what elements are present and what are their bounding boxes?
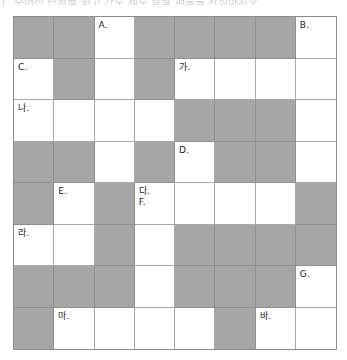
crossword-grid: A.B.C.가.나.D.E.다. F.라.G.마.바. [13,16,337,350]
blocked-cell [175,17,215,59]
answer-cell[interactable] [296,100,336,142]
blocked-cell [215,17,255,59]
blocked-cell [296,183,336,225]
blocked-cell [14,17,54,59]
blocked-cell [14,308,54,350]
blocked-cell [256,266,296,308]
clue-number-label: B. [300,20,310,31]
answer-cell[interactable] [54,225,94,267]
blocked-cell [95,225,135,267]
instruction-text: 1. 주어진 단서를 읽고 가로 세로 낱말 퍼즐을 완성하시오. [0,0,347,5]
clue-number-label: A. [99,20,108,31]
answer-cell[interactable]: 다. F. [135,183,175,225]
clue-number-label: 나. [18,103,29,114]
answer-cell[interactable] [215,183,255,225]
blocked-cell [175,225,215,267]
blocked-cell [256,100,296,142]
answer-cell[interactable]: A. [95,17,135,59]
blocked-cell [95,266,135,308]
blocked-cell [54,142,94,184]
clue-number-label: E. [58,186,67,197]
answer-cell[interactable] [95,100,135,142]
clue-number-label: 가. [179,62,190,73]
blocked-cell [175,266,215,308]
answer-cell[interactable]: E. [54,183,94,225]
answer-cell[interactable]: 바. [256,308,296,350]
blocked-cell [296,225,336,267]
answer-cell[interactable] [175,308,215,350]
blocked-cell [54,17,94,59]
clue-number-label: G. [300,269,310,280]
answer-cell[interactable] [256,183,296,225]
answer-cell[interactable]: G. [296,266,336,308]
blocked-cell [215,225,255,267]
answer-cell[interactable] [135,308,175,350]
answer-cell[interactable] [296,59,336,101]
blocked-cell [215,308,255,350]
blocked-cell [175,100,215,142]
blocked-cell [215,266,255,308]
answer-cell[interactable] [175,183,215,225]
answer-cell[interactable] [135,266,175,308]
answer-cell[interactable]: C. [14,59,54,101]
answer-cell[interactable]: D. [175,142,215,184]
blocked-cell [14,142,54,184]
answer-cell[interactable] [256,59,296,101]
blocked-cell [95,183,135,225]
blocked-cell [256,225,296,267]
answer-cell[interactable]: 라. [14,225,54,267]
blocked-cell [54,59,94,101]
clue-number-label: D. [179,145,189,156]
answer-cell[interactable] [296,308,336,350]
blocked-cell [215,142,255,184]
answer-cell[interactable] [95,59,135,101]
clue-number-label: C. [18,62,28,73]
blocked-cell [54,266,94,308]
answer-cell[interactable] [135,225,175,267]
blocked-cell [135,142,175,184]
answer-cell[interactable]: 마. [54,308,94,350]
clue-number-label: 라. [18,228,29,239]
answer-cell[interactable] [54,100,94,142]
answer-cell[interactable]: B. [296,17,336,59]
answer-cell[interactable] [95,142,135,184]
blocked-cell [14,183,54,225]
answer-cell[interactable] [296,142,336,184]
answer-cell[interactable] [95,308,135,350]
clue-number-label: 다. F. [139,186,150,208]
answer-cell[interactable]: 나. [14,100,54,142]
clue-number-label: 마. [58,311,69,322]
answer-cell[interactable] [135,100,175,142]
clue-number-label: 바. [260,311,271,322]
blocked-cell [135,59,175,101]
answer-cell[interactable]: 가. [175,59,215,101]
blocked-cell [256,17,296,59]
blocked-cell [14,266,54,308]
answer-cell[interactable] [215,59,255,101]
blocked-cell [256,142,296,184]
blocked-cell [215,100,255,142]
blocked-cell [135,17,175,59]
